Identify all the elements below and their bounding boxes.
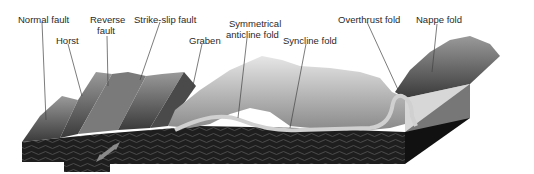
label-anticline-line2: anticline fold (226, 29, 279, 40)
nappe-terrain (395, 36, 500, 98)
label-horst: Horst (56, 35, 79, 46)
label-nappe-fold: Nappe fold (416, 14, 462, 25)
label-normal-fault: Normal fault (18, 14, 69, 25)
label-graben: Graben (189, 35, 221, 46)
label-anticline-line1: Symmetrical (229, 18, 281, 29)
label-strike-slip-fault: Strike-slip fault (134, 14, 196, 25)
label-reverse-fault-line2: fault (97, 25, 115, 36)
label-syncline-fold: Syncline fold (283, 35, 337, 46)
label-overthrust-fold: Overthrust fold (338, 14, 400, 25)
label-reverse-fault-line1: Reverse (90, 14, 125, 25)
geology-diagram: Normal fault Horst Reverse fault Strike-… (0, 0, 534, 174)
